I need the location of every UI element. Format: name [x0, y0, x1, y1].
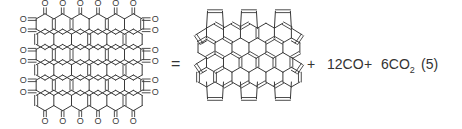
svg-text:O: O [20, 25, 27, 35]
svg-text:O: O [41, 0, 48, 8]
svg-text:O: O [20, 75, 27, 85]
svg-text:O: O [94, 116, 101, 126]
co2-coefficient: 6 [381, 56, 389, 72]
byproduct-co: 12CO [327, 57, 364, 71]
reaction-scheme: OOOOOOOOOOOOOOOOOOOOOOOO = + 12CO + 6CO2… [0, 0, 462, 129]
svg-text:O: O [130, 116, 137, 126]
svg-text:O: O [41, 116, 48, 126]
svg-text:O: O [152, 87, 159, 97]
equals-sign: = [171, 56, 180, 72]
svg-text:O: O [77, 116, 84, 126]
svg-text:O: O [59, 0, 66, 8]
svg-text:O: O [94, 0, 101, 8]
svg-text:O: O [152, 45, 159, 55]
svg-text:O: O [112, 0, 119, 8]
byproduct-co2: 6CO2 [381, 57, 415, 75]
svg-text:O: O [20, 56, 27, 66]
co-formula: CO [343, 56, 364, 72]
co2-subscript: 2 [410, 65, 415, 75]
svg-text:O: O [112, 116, 119, 126]
equation-number: (5) [421, 57, 438, 71]
svg-text:O: O [130, 0, 137, 8]
svg-text:O: O [152, 14, 159, 24]
svg-text:O: O [77, 0, 84, 8]
product-structure [185, 0, 345, 129]
plus-sign-1: + [307, 57, 315, 71]
svg-text:O: O [20, 87, 27, 97]
svg-text:O: O [59, 116, 66, 126]
reactant-structure: OOOOOOOOOOOOOOOOOOOOOOOO [0, 0, 170, 129]
co-coefficient: 12 [327, 56, 343, 72]
svg-text:O: O [152, 75, 159, 85]
co2-formula: CO [389, 56, 410, 72]
plus-sign-2: + [364, 57, 372, 71]
svg-text:O: O [20, 14, 27, 24]
svg-text:O: O [152, 56, 159, 66]
svg-text:O: O [20, 45, 27, 55]
svg-text:O: O [152, 25, 159, 35]
